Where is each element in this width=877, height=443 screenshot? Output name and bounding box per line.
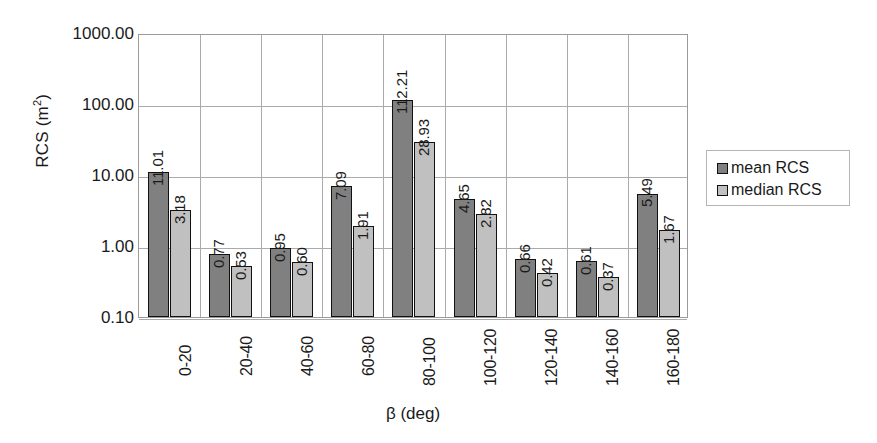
bar-mean-rcs-80-100[interactable] [392,100,413,317]
y-axis-tick-1-00: 1.00 [46,237,134,257]
bar-value-label: 0.66 [516,244,533,273]
bar-group-120-140: 0.660.42 [506,35,567,317]
x-axis-tick-100-120: 100-120 [482,329,500,386]
x-axis-tick-160-180: 160-180 [665,329,683,386]
bar-value-label: 11.01 [149,150,166,186]
bar-group-40-60: 0.950.60 [261,35,322,317]
legend-item-label: median RCS [731,181,822,199]
bar-value-label: 1.67 [660,215,677,244]
x-axis-tick-labels: 0-2020-4040-6060-8080-100100-120120-1401… [138,318,688,398]
bar-group-160-180: 5.491.67 [628,35,689,317]
x-axis-tick-0-20: 0-20 [177,345,195,376]
bar-group-0-20: 11.013.18 [139,35,200,317]
legend-swatch-icon [717,163,728,174]
bar-value-label: 4.65 [455,184,472,213]
bar-value-label: 0.53 [232,251,249,280]
y-axis-tick-0-10: 0.10 [46,308,134,328]
y-axis-tick-100-00: 100.00 [46,95,134,115]
x-axis-tick-40-60: 40-60 [299,336,317,376]
legend-item-label: mean RCS [731,159,809,177]
bar-mean-rcs-0-20[interactable] [148,172,169,317]
plot-area: 11.013.180.770.530.950.607.091.91112.212… [138,34,688,318]
bar-mean-rcs-100-120[interactable] [454,199,475,317]
bar-group-20-40: 0.770.53 [200,35,261,317]
bar-value-label: 0.77 [210,239,227,268]
bar-median-rcs-0-20[interactable] [170,210,191,317]
x-axis-title: β (deg) [138,404,688,424]
bar-mean-rcs-160-180[interactable] [637,194,658,318]
bar-value-label: 112.21 [393,70,410,114]
legend-item-median-rcs[interactable]: median RCS [717,179,849,201]
legend-item-mean-rcs[interactable]: mean RCS [717,157,849,179]
bar-group-60-80: 7.091.91 [322,35,383,317]
y-axis-tick-10-00: 10.00 [46,166,134,186]
bar-value-label: 0.61 [577,246,594,275]
bar-value-label: 5.49 [638,179,655,208]
chart-legend: mean RCSmedian RCS [706,150,850,206]
y-axis-tick-1000-00: 1000.00 [46,24,134,44]
bar-mean-rcs-60-80[interactable] [331,186,352,317]
bar-group-140-160: 0.610.37 [567,35,628,317]
bar-group-80-100: 112.2128.93 [383,35,444,317]
bar-value-label: 0.60 [293,247,310,276]
bar-value-label: 3.18 [171,196,188,225]
bar-group-100-120: 4.652.82 [445,35,506,317]
y-axis-tick-labels: 1000.00100.0010.001.000.10 [42,0,134,443]
bar-value-label: 0.95 [271,233,288,262]
bar-value-label: 0.42 [538,258,555,287]
legend-swatch-icon [717,185,728,196]
bar-value-label: 28.93 [415,119,432,156]
bar-value-label: 7.09 [332,171,349,200]
x-axis-tick-140-160: 140-160 [604,329,622,386]
x-axis-tick-120-140: 120-140 [543,329,561,386]
bar-value-label: 0.37 [599,262,616,291]
bar-value-label: 1.91 [354,211,371,240]
x-axis-tick-60-80: 60-80 [360,336,378,376]
bar-median-rcs-100-120[interactable] [476,214,497,317]
x-axis-tick-80-100: 80-100 [421,337,439,386]
bar-value-label: 2.82 [477,199,494,228]
bar-median-rcs-80-100[interactable] [414,142,435,317]
x-axis-tick-20-40: 20-40 [238,336,256,376]
rcs-bar-chart-figure: RCS (m2) 1000.00100.0010.001.000.10 11.0… [0,0,877,443]
